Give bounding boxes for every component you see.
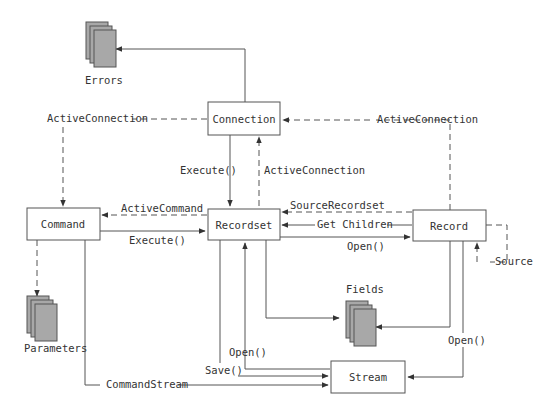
ado-object-model-diagram: Errors Parameters Fields ActiveConnectio… [0, 0, 547, 415]
label-rs-activeconnection: ActiveConnection [264, 164, 365, 176]
edge-connection-errors [116, 49, 245, 102]
label-rs-save: Save() [205, 364, 243, 376]
edge-recordset-fields [266, 240, 339, 318]
errors-label: Errors [85, 74, 123, 86]
node-connection: Connection [208, 102, 280, 135]
label-rs-open-record: Open() [347, 240, 385, 252]
label-rs-open-stream: Open() [229, 346, 267, 358]
label-rec-activeconnection: ActiveConnection [377, 113, 478, 125]
node-record-label: Record [430, 220, 468, 232]
label-get-children: Get Children [317, 218, 393, 230]
node-command-label: Command [41, 218, 85, 230]
node-connection-label: Connection [212, 113, 275, 125]
fields-label: Fields [346, 283, 384, 295]
parameters-label: Parameters [24, 342, 87, 354]
label-source-recordset: SourceRecordset [290, 199, 385, 211]
node-recordset-label: Recordset [216, 219, 273, 231]
edge-record-open-stream [408, 240, 463, 377]
fields-collection-icon [346, 301, 376, 346]
edge-commandstream-a [85, 240, 100, 385]
label-cmd-execute: Execute() [129, 234, 186, 246]
node-recordset: Recordset [208, 209, 280, 240]
label-source: Source [495, 255, 533, 267]
node-stream-label: Stream [349, 371, 387, 383]
node-command: Command [27, 208, 100, 240]
parameters-collection-icon [27, 296, 57, 341]
errors-collection-icon [86, 22, 116, 67]
label-rec-open-stream: Open() [448, 334, 486, 346]
node-record: Record [413, 210, 486, 241]
label-command-stream: CommandStream [106, 378, 188, 390]
edge-record-fields [376, 240, 450, 327]
edge-record-activeconnection-a [376, 120, 450, 210]
label-cmd-activeconnection: ActiveConnection [47, 112, 148, 124]
node-stream: Stream [331, 361, 405, 393]
label-conn-execute: Execute() [180, 164, 237, 176]
label-active-command: ActiveCommand [121, 202, 203, 214]
